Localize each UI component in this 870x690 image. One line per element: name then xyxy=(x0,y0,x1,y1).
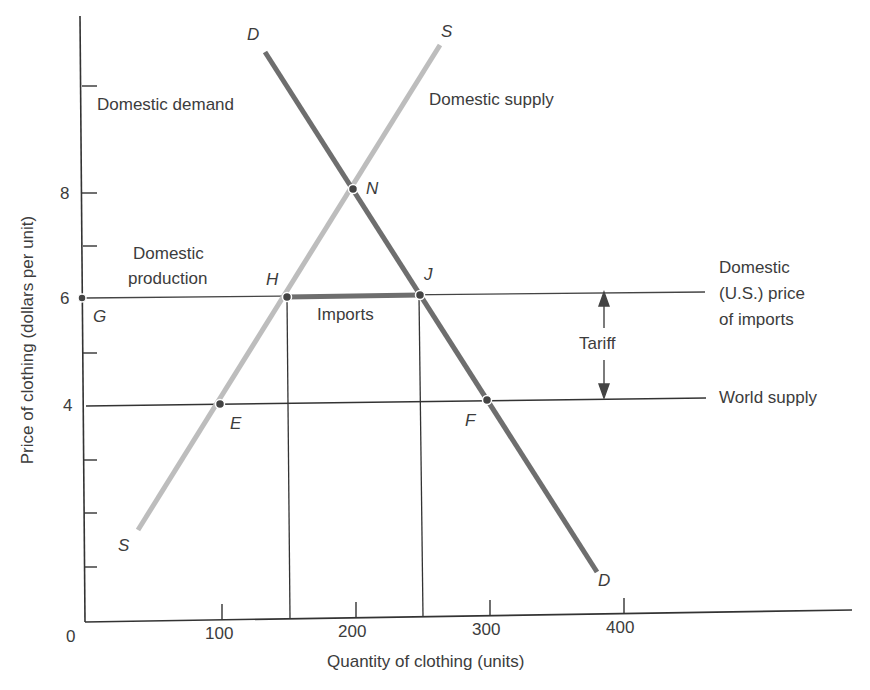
guide-domestic-production xyxy=(287,298,290,618)
label-imports: Imports xyxy=(317,304,374,326)
x-tick-300: 300 xyxy=(472,620,500,640)
demand-curve xyxy=(265,52,597,572)
label-domestic-production-line1: Domestic xyxy=(133,243,204,265)
demand-label-top: D xyxy=(247,25,259,45)
point-label-j: J xyxy=(424,265,433,285)
supply-label-top: S xyxy=(441,22,452,42)
label-domestic-demand: Domestic demand xyxy=(97,94,234,116)
label-us-price-line3: of imports xyxy=(719,309,794,331)
y-axis-title: Price of clothing (dollars per unit) xyxy=(18,190,38,490)
x-tick-100: 100 xyxy=(205,624,233,644)
point-label-h: H xyxy=(266,270,278,290)
label-us-price-line2: (U.S.) price xyxy=(719,283,805,305)
y-tick-8: 8 xyxy=(60,184,69,204)
y-tick-4: 4 xyxy=(63,396,72,416)
label-domestic-supply: Domestic supply xyxy=(429,89,554,111)
label-tariff: Tariff xyxy=(579,333,616,355)
x-tick-400: 400 xyxy=(606,618,634,638)
point-label-e: E xyxy=(230,414,241,434)
y-axis xyxy=(80,16,85,622)
world-supply-line xyxy=(86,398,706,406)
x-tick-200: 200 xyxy=(338,622,366,642)
y-tick-6: 6 xyxy=(60,289,69,309)
x-axis xyxy=(85,610,852,622)
point-label-f: F xyxy=(465,411,475,431)
point-label-n: N xyxy=(366,179,378,199)
label-world-supply: World supply xyxy=(719,387,817,409)
x-axis-title: Quantity of clothing (units) xyxy=(327,651,524,673)
equilibrium-points xyxy=(78,185,492,409)
point-n xyxy=(349,185,358,194)
label-us-price-line1: Domestic xyxy=(719,257,790,279)
point-f xyxy=(483,396,492,405)
point-e xyxy=(216,400,225,409)
supply-label-bottom: S xyxy=(118,536,129,556)
demand-label-bottom: D xyxy=(598,571,610,591)
point-label-g: G xyxy=(93,307,106,327)
guide-total-consumption xyxy=(419,296,423,616)
imports-segment xyxy=(287,295,420,297)
point-h xyxy=(283,293,292,302)
x-tick-0: 0 xyxy=(66,627,75,647)
point-g xyxy=(78,294,86,302)
label-domestic-production-line2: production xyxy=(128,268,207,290)
point-j xyxy=(416,291,425,300)
